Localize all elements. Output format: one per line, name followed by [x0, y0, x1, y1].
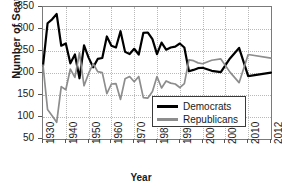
- x-tick-mark: [179, 139, 180, 143]
- legend-swatch-republicans-icon: [157, 118, 178, 121]
- legend-item-democrats: Democrats: [157, 100, 241, 113]
- y-tick-label: 300: [8, 23, 34, 33]
- legend-label-democrats: Democrats: [183, 101, 231, 112]
- x-tick-mark: [88, 139, 89, 143]
- x-tick-label: 2012: [274, 122, 282, 144]
- x-tick-label: 1930: [46, 122, 56, 144]
- legend-swatch-democrats-icon: [157, 105, 178, 108]
- y-tick-label: 250: [8, 45, 34, 55]
- x-tick-mark: [110, 139, 111, 143]
- x-tick-label: 1960: [114, 122, 124, 144]
- y-tick-label: 150: [8, 89, 34, 99]
- x-tick-mark: [156, 139, 157, 143]
- x-tick-mark: [224, 139, 225, 143]
- chart-legend: Democrats Republicans: [152, 96, 246, 127]
- x-tick-label: 1970: [137, 122, 147, 144]
- y-tick-label: 50: [8, 133, 34, 143]
- x-tick-mark: [270, 139, 271, 143]
- x-tick-mark: [202, 139, 203, 143]
- y-tick-label: 100: [8, 111, 34, 121]
- x-tick-label: 2010: [251, 122, 261, 144]
- x-tick-mark: [65, 139, 66, 143]
- x-tick-label: 1940: [69, 122, 79, 144]
- legend-label-republicans: Republicans: [183, 114, 238, 125]
- x-tick-mark: [133, 139, 134, 143]
- x-tick-mark: [247, 139, 248, 143]
- legend-item-republicans: Republicans: [157, 113, 241, 126]
- y-tick-label: 200: [8, 67, 34, 77]
- x-axis-title: Year: [0, 172, 282, 183]
- x-tick-label: 1950: [92, 122, 102, 144]
- y-tick-label: 350: [8, 1, 34, 11]
- x-tick-mark: [42, 139, 43, 143]
- seats-line-chart: Number of Seats 50100150200250300350 193…: [0, 0, 282, 192]
